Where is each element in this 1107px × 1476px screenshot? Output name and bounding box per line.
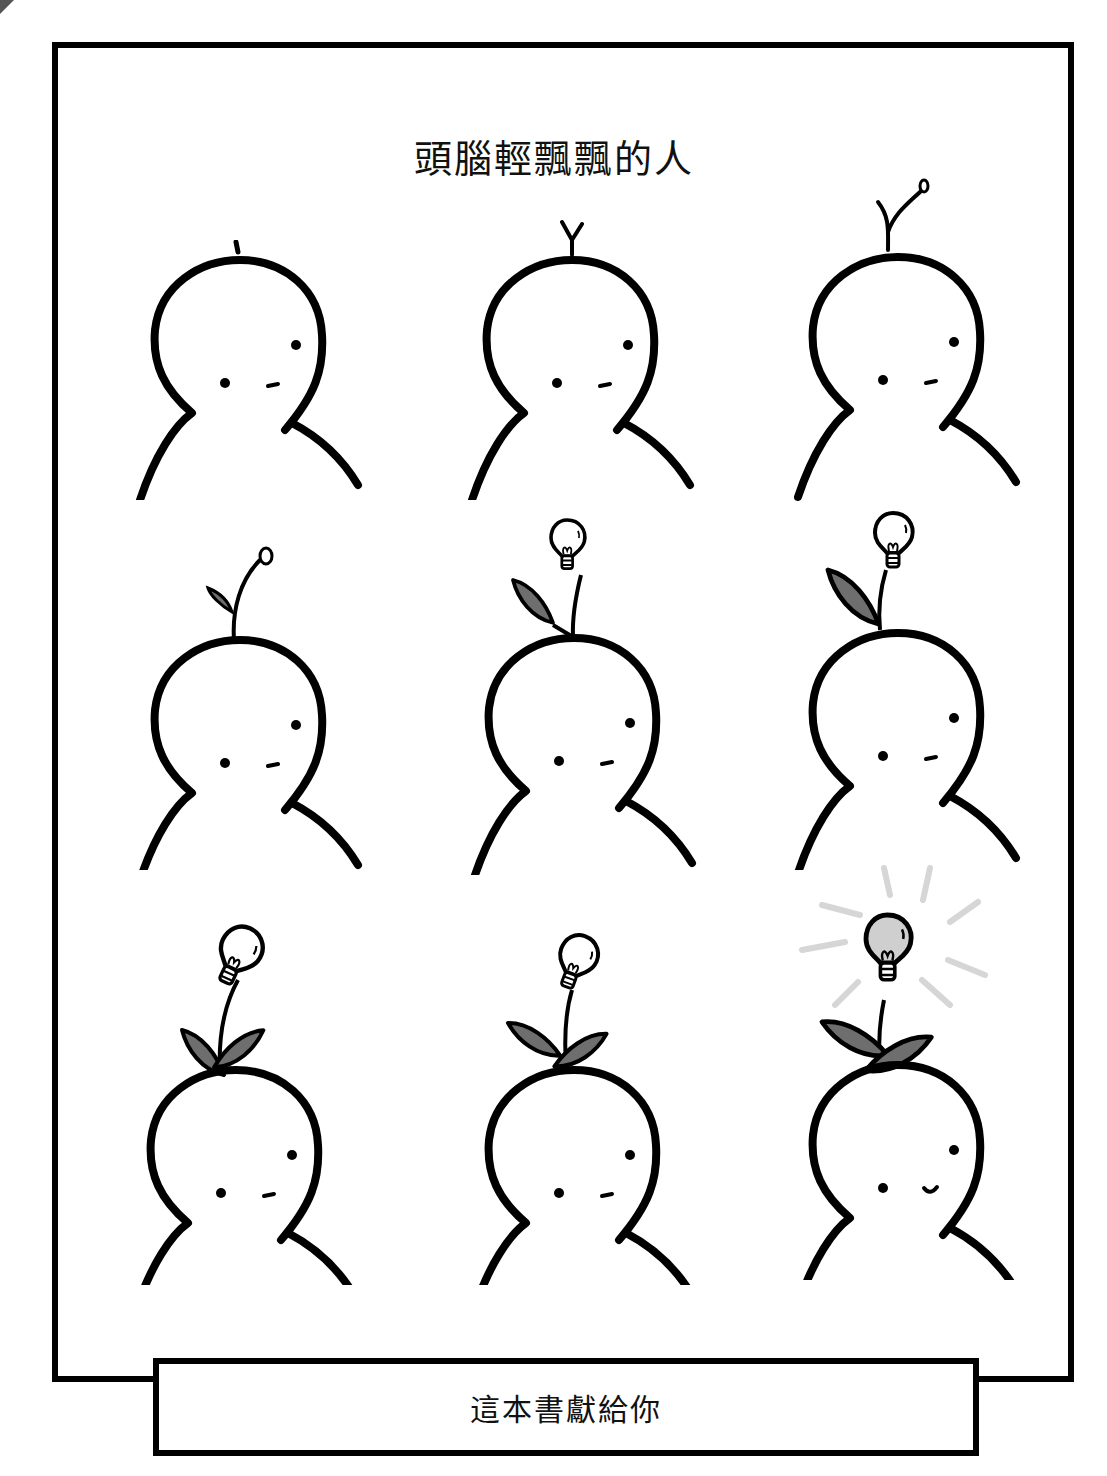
bulb-plant-icon (182, 920, 270, 1075)
page-corner-mark (0, 0, 14, 14)
person-body-icon (140, 640, 358, 870)
person-body-icon (140, 260, 358, 500)
bulb-plant-icon (513, 520, 585, 637)
figure-row3-col3 (780, 860, 1040, 1220)
bulb-plant-icon (828, 513, 913, 630)
person-body-icon (474, 638, 692, 875)
person-body-icon (136, 1070, 354, 1285)
person-body-icon (474, 1070, 692, 1285)
figure-row3-col2 (448, 905, 708, 1265)
dedication-box: 這本書獻給你 (153, 1358, 979, 1456)
figure-row1-col3 (780, 172, 1040, 532)
dedication-text: 這本書獻給你 (470, 1385, 662, 1429)
sprout-bud-icon (878, 180, 928, 250)
person-body-icon (472, 260, 690, 500)
bulb-plant-icon (508, 930, 607, 1077)
figure-row2-col2 (448, 515, 708, 875)
figure-row2-col1 (120, 540, 380, 900)
sprout-fork-icon (562, 222, 582, 255)
figure-row2-col3 (780, 510, 1040, 870)
figure-row3-col1 (120, 905, 380, 1265)
sprout-leaf-bud-icon (208, 548, 272, 640)
person-body-icon (798, 257, 1016, 497)
nub-icon (236, 242, 238, 252)
person-body-icon (798, 633, 1016, 870)
person-body-icon (798, 1065, 1016, 1280)
